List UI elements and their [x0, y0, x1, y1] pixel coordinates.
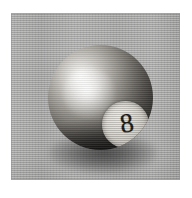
page-canvas: 8 [0, 0, 192, 198]
photo-panel: 8 [11, 13, 180, 180]
eight-ball: 8 [48, 45, 153, 150]
ball-number-spot: 8 [102, 101, 149, 148]
ball-number-label: 8 [118, 109, 136, 138]
